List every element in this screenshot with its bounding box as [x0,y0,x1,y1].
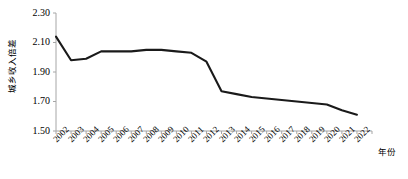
data-series-group [56,37,357,115]
y-axis-tick-label: 1.90 [14,66,50,77]
x-axis-title: 年份 [378,145,396,157]
line-chart-plot [0,0,408,179]
data-line-chengxiang-shouru-beicha [56,37,357,115]
y-axis-tick-label: 1.70 [14,95,50,106]
chart-container: 城乡收入倍差 2.302.101.901.701.50 200220032004… [0,0,408,179]
y-axis-tick-label: 2.30 [14,7,50,18]
y-axis-tick-label: 1.50 [14,125,50,136]
y-axis-tick-label: 2.10 [14,36,50,47]
